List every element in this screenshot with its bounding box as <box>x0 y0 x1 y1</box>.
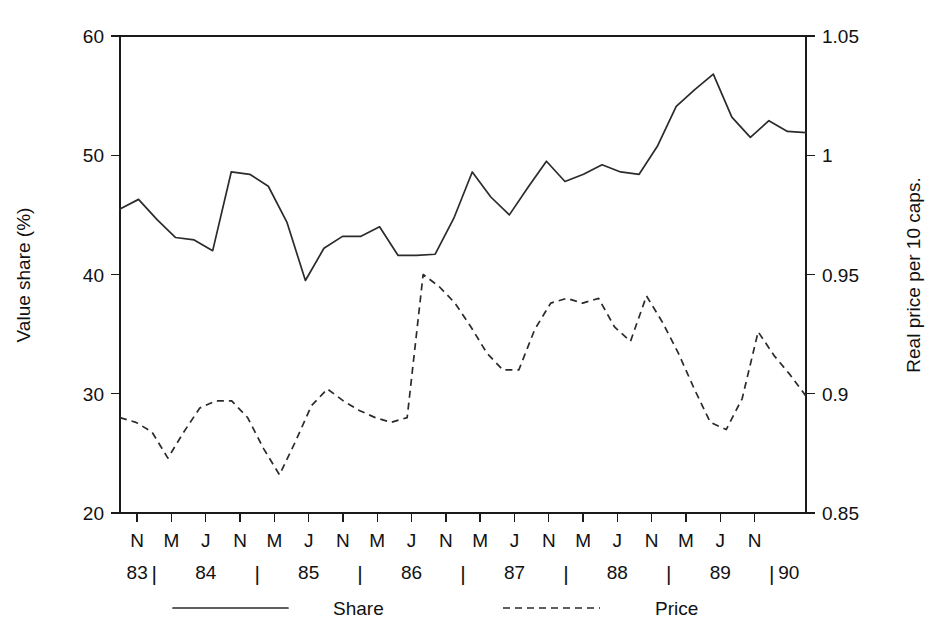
y-tick-label: 50 <box>83 145 104 166</box>
y2-tick-label: 0.95 <box>822 265 859 286</box>
x-month-label: N <box>542 530 556 551</box>
x-year-separator: | <box>357 562 362 585</box>
y-tick-label: 60 <box>83 26 104 47</box>
x-month-label: N <box>336 530 350 551</box>
x-month-label: J <box>201 530 211 551</box>
left-axis: 2030405060 <box>83 26 120 524</box>
y2-tick-label: 0.9 <box>822 384 848 405</box>
x-year-label: 87 <box>504 562 525 583</box>
line-chart: 2030405060 0.850.90.9511.05 NMJNMJNMJNMJ… <box>0 0 950 643</box>
x-year-separator: | <box>460 562 465 585</box>
x-month-label: M <box>266 530 282 551</box>
x-month-label: J <box>510 530 520 551</box>
x-year-label: 89 <box>710 562 731 583</box>
y-tick-label: 20 <box>83 503 104 524</box>
y-tick-label: 40 <box>83 265 104 286</box>
x-year-label: 88 <box>607 562 628 583</box>
right-axis: 0.850.90.9511.05 <box>806 26 859 524</box>
x-month-label: J <box>304 530 314 551</box>
y2-tick-label: 1 <box>822 145 833 166</box>
y-axis-title: Value share (%) <box>13 208 34 343</box>
x-year-label: 84 <box>195 562 217 583</box>
x-year-separator: | <box>254 562 259 585</box>
series-line-price <box>120 275 806 475</box>
chart-container: 2030405060 0.850.90.9511.05 NMJNMJNMJNMJ… <box>0 0 950 643</box>
x-month-label: M <box>472 530 488 551</box>
series-group <box>120 74 806 475</box>
x-year-separator: | <box>666 562 671 585</box>
x-year-label: 83 <box>127 562 148 583</box>
chart-legend: Share Price <box>173 598 698 619</box>
x-axis-year-labels: 83|84|85|86|87|88|89|90 <box>127 562 800 585</box>
series-line-share <box>120 74 806 280</box>
x-month-label: N <box>439 530 453 551</box>
x-month-label: N <box>748 530 762 551</box>
y2-tick-label: 1.05 <box>822 26 859 47</box>
x-axis <box>137 513 754 522</box>
x-axis-month-labels: NMJNMJNMJNMJNMJNMJN <box>130 530 761 551</box>
legend-label-share: Share <box>333 598 384 619</box>
x-year-label: 85 <box>298 562 319 583</box>
x-year-separator: | <box>563 562 568 585</box>
y-tick-label: 30 <box>83 384 104 405</box>
legend-label-price: Price <box>655 598 698 619</box>
x-month-label: M <box>164 530 180 551</box>
x-month-label: J <box>407 530 417 551</box>
x-year-separator: | <box>152 562 157 585</box>
x-month-label: N <box>130 530 144 551</box>
x-month-label: M <box>369 530 385 551</box>
x-month-label: N <box>645 530 659 551</box>
x-month-label: J <box>613 530 623 551</box>
x-year-separator: | <box>769 562 774 585</box>
y2-tick-label: 0.85 <box>822 503 859 524</box>
x-year-label: 86 <box>401 562 422 583</box>
x-month-label: J <box>716 530 726 551</box>
x-month-label: M <box>678 530 694 551</box>
plot-frame <box>120 36 806 513</box>
x-month-label: N <box>233 530 247 551</box>
x-year-label: 90 <box>778 562 799 583</box>
x-month-label: M <box>575 530 591 551</box>
y2-axis-title: Real price per 10 caps. <box>903 177 924 372</box>
